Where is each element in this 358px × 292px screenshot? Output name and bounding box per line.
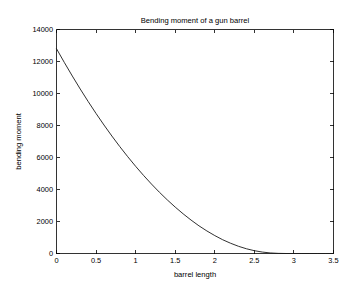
y-tick-label: 0 xyxy=(49,249,53,258)
y-tick-label: 6000 xyxy=(37,153,53,162)
x-tick-label: 1 xyxy=(134,256,138,265)
x-axis-label: barrel length xyxy=(174,270,216,279)
figure-canvas: 00.511.522.533.5020004000600080001000012… xyxy=(0,0,358,292)
x-tick-label: 0.5 xyxy=(91,256,101,265)
y-tick-label: 14000 xyxy=(32,25,53,34)
y-tick-label: 8000 xyxy=(37,121,53,130)
chart-plot: 00.511.522.533.5020004000600080001000012… xyxy=(0,0,358,292)
x-tick-label: 1.5 xyxy=(170,256,180,265)
chart-title: Bending moment of a gun barrel xyxy=(141,16,250,25)
axes-box xyxy=(57,30,334,254)
x-tick-label: 2 xyxy=(213,256,217,265)
data-series-line xyxy=(57,49,334,254)
x-tick-label: 3.5 xyxy=(328,256,338,265)
x-tick-label: 0 xyxy=(54,256,58,265)
y-tick-label: 10000 xyxy=(32,89,53,98)
y-tick-label: 4000 xyxy=(37,185,53,194)
y-tick-label: 12000 xyxy=(32,57,53,66)
y-tick-label: 2000 xyxy=(37,217,53,226)
x-tick-label: 3 xyxy=(292,256,296,265)
y-axis-label: bending moment xyxy=(14,112,23,169)
x-tick-label: 2.5 xyxy=(249,256,259,265)
